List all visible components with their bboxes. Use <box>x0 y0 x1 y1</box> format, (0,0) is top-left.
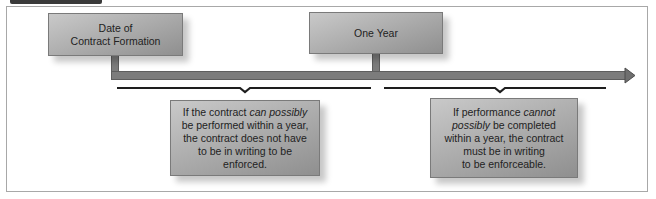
within-year-text: If the contract can possibly be performe… <box>182 106 309 171</box>
beyond-year-text: If performance cannot possibly be comple… <box>444 106 563 171</box>
start-date-box: Date of Contract Formation <box>48 13 183 56</box>
left-brace <box>117 88 371 92</box>
within-year-prefix: If the contract <box>183 106 250 118</box>
one-year-label: One Year <box>354 27 398 40</box>
within-year-box: If the contract can possibly be performe… <box>170 100 320 176</box>
within-year-emphasis: can possibly <box>249 106 307 118</box>
timeline-arrow-icon <box>625 68 635 83</box>
beyond-year-box: If performance cannot possibly be comple… <box>430 98 578 178</box>
beyond-year-prefix: If performance <box>453 106 524 118</box>
one-year-box: One Year <box>309 12 443 54</box>
start-date-label: Date of Contract Formation <box>71 22 161 48</box>
right-brace <box>384 88 606 92</box>
within-year-rest: be performed within a year, the contract… <box>182 119 309 170</box>
